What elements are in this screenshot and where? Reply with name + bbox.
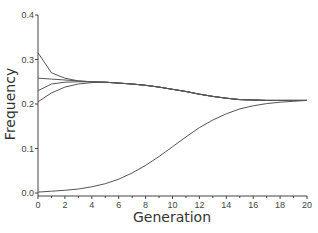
x-axis-label: Generation [133,209,211,225]
x-tick-label: 2 [62,200,67,210]
x-tick-label: 14 [221,200,231,210]
x-tick-label: 6 [116,200,121,210]
series-line [38,82,307,101]
x-tick-label: 20 [302,200,312,210]
series-line [38,82,307,102]
y-tick-label: 0.2 [21,99,34,109]
x-tick-label: 18 [275,200,285,210]
x-tick-label: 4 [89,200,94,210]
y-tick-label: 0.4 [21,10,34,20]
y-axis-label: Frequency [2,68,18,140]
x-tick-label: 16 [248,200,258,210]
line-chart: 0.00.10.20.30.402468101214161820 Generat… [0,0,318,233]
x-tick-label: 0 [35,200,40,210]
series-lines [38,53,307,192]
series-line [38,53,307,101]
y-tick-label: 0.0 [21,188,34,198]
y-tick-label: 0.3 [21,55,34,65]
series-line [38,100,307,192]
axes: 0.00.10.20.30.402468101214161820 [21,10,312,210]
y-tick-label: 0.1 [21,144,34,154]
